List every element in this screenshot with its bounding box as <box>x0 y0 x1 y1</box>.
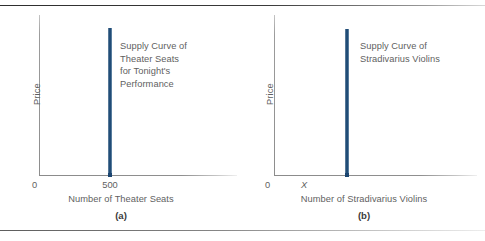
x-tick-label-b: X <box>274 180 334 190</box>
x-axis-tick-b <box>345 173 349 177</box>
supply-curve-annotation-b: Supply Curve of Stradivarius Violins <box>360 40 440 65</box>
x-axis-b <box>274 175 477 176</box>
supply-curve-line-b <box>345 29 349 176</box>
chart-panel-b: Supply Curve of Stradivarius Violins Num… <box>243 0 485 241</box>
plot-area-b: Supply Curve of Stradivarius Violins <box>274 15 477 176</box>
y-axis-label-b: Price <box>265 83 275 105</box>
chart-panel-b-labels: Price 0 X <box>0 0 242 241</box>
panel-caption-b: (b) <box>249 210 479 221</box>
origin-label-b: 0 <box>265 180 270 190</box>
x-axis-label-b: Number of Stradivarius Violins <box>249 194 479 204</box>
